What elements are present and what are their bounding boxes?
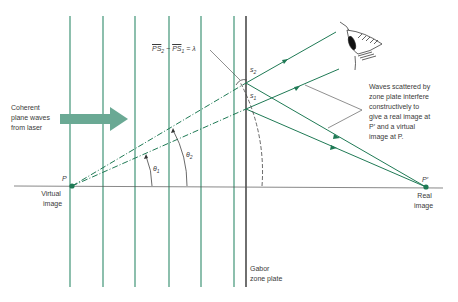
point-P-prime xyxy=(423,184,428,189)
waves-line-5: P′ and a virtual xyxy=(369,122,430,132)
ray-to-eye-upper xyxy=(246,32,336,83)
waves-line-2: zone plate interfere xyxy=(369,92,430,102)
eye-icon xyxy=(340,22,382,70)
gabor-zone-plate-label: Gabor zone plate xyxy=(250,264,282,284)
equation-leader-line xyxy=(210,50,240,80)
s2-label: s2 xyxy=(250,65,256,77)
theta1-sub: 1 xyxy=(157,168,160,174)
plane-wave-lines xyxy=(70,16,234,287)
theta1-arc xyxy=(146,156,152,186)
path-difference-equation: PS2 − PS1 = λ xyxy=(152,44,196,56)
waves-leader-lower xyxy=(328,110,362,128)
s1-sub: 1 xyxy=(254,95,257,101)
theta2-sub: 2 xyxy=(190,154,193,160)
theta1-label: θ1 xyxy=(153,164,160,176)
coherent-line-3: from laser xyxy=(11,123,50,133)
eq-minus: − xyxy=(166,45,170,52)
gabor-line-2: zone plate xyxy=(250,274,282,284)
diagram-canvas xyxy=(0,0,458,302)
real-line-2: image xyxy=(414,201,433,211)
waves-line-3: constructively to xyxy=(369,102,430,112)
waves-line-1: Waves scattered by xyxy=(369,82,430,92)
optical-axis xyxy=(14,186,443,188)
waves-line-6: image at P. xyxy=(369,132,430,142)
eq-ps2: PS xyxy=(152,45,161,52)
gabor-line-1: Gabor xyxy=(250,264,282,274)
waves-scattered-label: Waves scattered by zone plate interfere … xyxy=(369,82,430,142)
real-line-1: Real xyxy=(414,191,433,201)
coherent-line-2: plane waves xyxy=(11,113,50,123)
waves-line-4: give a real image at xyxy=(369,112,430,122)
virtual-image-label: Virtual image xyxy=(40,189,62,209)
theta2-label: θ2 xyxy=(186,150,193,162)
coherent-label: Coherent plane waves from laser xyxy=(11,103,50,133)
point-P xyxy=(69,183,74,188)
real-image-label: Real image xyxy=(414,191,433,211)
waves-leader-upper xyxy=(305,85,362,110)
virtual-line-2: image xyxy=(40,199,62,209)
virtual-line-1: Virtual xyxy=(40,189,62,199)
coherent-line-1: Coherent xyxy=(11,103,50,113)
P-label: P xyxy=(62,174,67,184)
s1-label: s1 xyxy=(250,91,256,103)
eq-sub1: 1 xyxy=(181,48,184,54)
eq-lambda: = λ xyxy=(186,45,195,52)
P-prime-label: P′ xyxy=(422,175,428,185)
eq-sub2: 2 xyxy=(161,48,164,54)
s2-sub: 2 xyxy=(254,69,257,75)
